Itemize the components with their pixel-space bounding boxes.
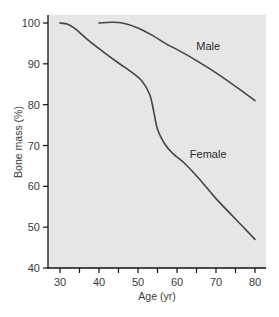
y-tick-label: 40 <box>28 262 40 274</box>
y-tick-label: 80 <box>28 99 40 111</box>
y-tick-label: 60 <box>28 180 40 192</box>
x-tick-label: 30 <box>54 276 66 288</box>
x-tick-label: 50 <box>132 276 144 288</box>
x-axis-title: Age (yr) <box>138 290 175 302</box>
x-axis-ticks: 304050607080 <box>54 268 261 288</box>
series-label-female: Female <box>190 148 227 160</box>
y-axis-ticks: 405060708090100 <box>22 17 48 274</box>
series-label-male: Male <box>196 40 220 52</box>
x-tick-label: 70 <box>210 276 222 288</box>
y-tick-label: 90 <box>28 58 40 70</box>
y-axis-title: Bone mass (%) <box>12 106 24 178</box>
y-tick-label: 50 <box>28 221 40 233</box>
y-tick-label: 100 <box>22 17 40 29</box>
x-tick-label: 60 <box>171 276 183 288</box>
x-tick-label: 80 <box>249 276 261 288</box>
plot-background <box>48 15 266 268</box>
bone-mass-chart: MaleFemale 405060708090100 304050607080 … <box>0 0 279 317</box>
y-tick-label: 70 <box>28 140 40 152</box>
x-tick-label: 40 <box>93 276 105 288</box>
